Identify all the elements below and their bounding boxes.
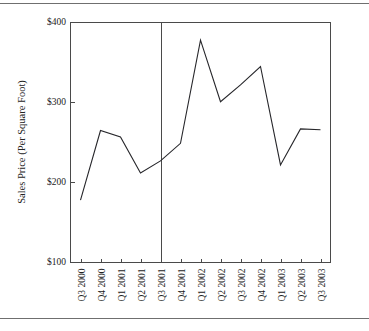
xtick-label-q3-2002: Q3 2002	[237, 268, 247, 301]
xtick-label-q2-2001: Q2 2001	[137, 268, 147, 301]
xtick-label-q4-2000: Q4 2000	[97, 268, 107, 301]
xtick-label-q2-2003: Q2 2003	[297, 268, 307, 301]
sales-price-chart: $400 $300 $200 $100 Sales Price (Per Squ…	[0, 0, 369, 331]
figure-container: $400 $300 $200 $100 Sales Price (Per Squ…	[0, 0, 369, 331]
x-axis-tick-labels: Q3 2000Q4 2000Q1 2001Q2 2001Q3 2001Q4 20…	[77, 268, 327, 301]
ytick-label-200: $200	[47, 177, 66, 187]
xtick-label-q4-2001: Q4 2001	[177, 268, 187, 301]
sales-price-series-line	[81, 40, 321, 200]
y-axis-tick-marks	[71, 23, 75, 263]
xtick-label-q4-2002: Q4 2002	[257, 268, 267, 301]
xtick-label-q3-2003: Q3 2003	[317, 268, 327, 301]
ytick-label-100: $100	[47, 257, 66, 267]
xtick-label-q3-2001: Q3 2001	[157, 268, 167, 301]
xtick-label-q1-2001: Q1 2001	[117, 268, 127, 301]
x-axis-tick-marks	[82, 259, 322, 263]
xtick-label-q1-2002: Q1 2002	[197, 268, 207, 301]
ytick-label-300: $300	[47, 97, 66, 107]
xtick-label-q1-2003: Q1 2003	[277, 268, 287, 301]
xtick-label-q3-2000: Q3 2000	[77, 268, 87, 301]
y-axis-tick-labels: $400 $300 $200 $100	[47, 17, 66, 267]
y-axis-title: Sales Price (Per Square Foot)	[16, 80, 28, 204]
xtick-label-q2-2002: Q2 2002	[217, 268, 227, 301]
plot-frame	[71, 23, 331, 263]
ytick-label-400: $400	[47, 17, 66, 27]
